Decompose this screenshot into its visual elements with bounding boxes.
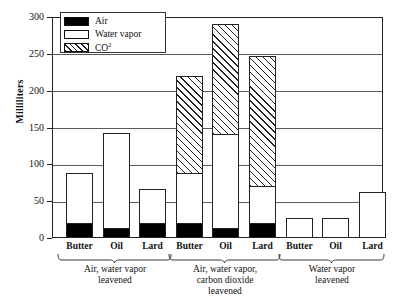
legend-swatch-water-vapor-icon	[64, 30, 89, 39]
y-tick-label-250: 250	[0, 48, 44, 59]
legend-swatch-co2-icon	[64, 43, 89, 52]
segment-co2	[177, 77, 202, 173]
y-tick-label-200: 200	[0, 85, 44, 96]
segment-water-vapor	[177, 173, 202, 223]
segment-water-vapor	[104, 134, 129, 228]
segment-air	[67, 223, 92, 238]
segment-air	[140, 223, 165, 238]
group-caption-3: Water vapor leavened	[276, 264, 388, 286]
stacked-bar-chart: Milliliters 0 50 100 150 200 250 300	[0, 0, 398, 304]
bar-g3-lard	[359, 192, 386, 238]
segment-water-vapor	[67, 174, 92, 223]
bar-g2-oil	[212, 24, 239, 238]
bar-g1-butter	[66, 173, 93, 238]
x-label-g3-oil: Oil	[317, 241, 354, 251]
legend-label-air: Air	[95, 16, 108, 26]
legend-label-co2-superscript: 2	[108, 41, 111, 48]
segment-water-vapor	[250, 186, 275, 223]
bar-g2-lard	[249, 56, 276, 238]
legend-item-air: Air	[64, 15, 162, 27]
bar-g3-butter	[286, 218, 313, 238]
bar-g1-oil	[103, 133, 130, 238]
segment-water-vapor	[360, 193, 385, 238]
legend-swatch-air-icon	[64, 17, 89, 26]
segment-water-vapor	[323, 219, 348, 238]
y-tick-mark-0	[47, 238, 52, 239]
y-tick-label-50: 50	[0, 195, 44, 206]
legend: Air Water vapor CO2	[60, 12, 166, 53]
segment-water-vapor	[213, 134, 238, 228]
y-tick-label-0: 0	[0, 232, 44, 243]
group-brace-3	[278, 254, 385, 263]
group-caption-2: Air, water vapor, carbon dioxide leavene…	[164, 264, 286, 297]
x-label-g3-lard: Lard	[350, 241, 395, 251]
legend-label-co2: CO2	[95, 40, 111, 53]
group-brace-2	[168, 254, 281, 263]
bar-g2-butter	[176, 76, 203, 238]
segment-water-vapor	[287, 219, 312, 238]
segment-air	[250, 223, 275, 238]
segment-co2	[250, 57, 275, 186]
legend-item-water-vapor: Water vapor	[64, 28, 162, 40]
group-caption-1: Air, water vapor leavened	[54, 264, 176, 286]
bar-g1-lard	[139, 189, 166, 238]
y-tick-label-100: 100	[0, 158, 44, 169]
legend-label-co2-text: CO	[95, 44, 108, 54]
segment-air	[104, 228, 129, 238]
segment-air	[177, 223, 202, 238]
y-tick-label-150: 150	[0, 122, 44, 133]
y-tick-label-300: 300	[0, 11, 44, 22]
legend-item-co2: CO2	[64, 41, 162, 53]
x-label-g2-oil: Oil	[207, 241, 244, 251]
segment-co2	[213, 25, 238, 134]
group-brace-1	[57, 254, 172, 263]
segment-air	[213, 228, 238, 238]
bar-g3-oil	[322, 218, 349, 238]
legend-label-water-vapor: Water vapor	[95, 29, 141, 39]
y-axis-title: Milliliters	[14, 57, 25, 147]
segment-water-vapor	[140, 190, 165, 223]
